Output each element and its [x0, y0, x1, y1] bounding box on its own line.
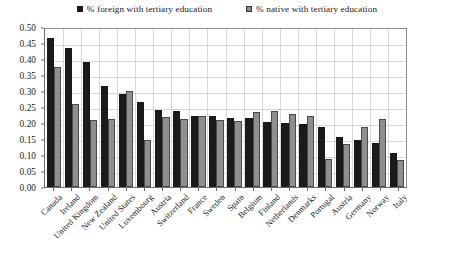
bar-group	[45, 29, 63, 187]
bar-native	[271, 111, 278, 187]
legend-entry-native: % native with tertiary education	[246, 4, 377, 14]
y-axis-tick-label: 0.40	[20, 55, 36, 65]
bar-native	[72, 104, 79, 187]
y-axis-tick-label: 0.50	[20, 23, 36, 33]
legend-swatch-native-icon	[246, 6, 252, 12]
bar-foreign	[47, 38, 54, 187]
legend-label-foreign: % foreign with tertiary education	[87, 4, 212, 14]
bar-foreign	[263, 122, 270, 187]
bar-group	[99, 29, 117, 187]
y-axis-tick-label: 0.00	[20, 183, 36, 193]
bar-group	[171, 29, 189, 187]
chart-legend: % foreign with tertiary education % nati…	[0, 4, 454, 14]
bar-foreign	[299, 124, 306, 187]
bar-native	[234, 121, 241, 187]
bar-native	[198, 116, 205, 187]
bar-native	[307, 116, 314, 187]
y-axis-tick-label: 0.45	[20, 39, 36, 49]
y-axis-tick-label: 0.15	[20, 135, 36, 145]
bar-foreign	[119, 94, 126, 187]
bar-native	[216, 120, 223, 187]
bar-foreign	[390, 153, 397, 187]
legend-swatch-foreign-icon	[77, 6, 83, 12]
bar-native	[325, 159, 332, 187]
bar-native	[361, 127, 368, 187]
bar-group	[117, 29, 135, 187]
y-axis-tick-label: 0.20	[20, 119, 36, 129]
bar-foreign	[354, 140, 361, 187]
bar-group	[81, 29, 99, 187]
bar-native	[90, 120, 97, 187]
x-axis-labels: CanadaIrelandUnited KingdomNew ZealandUn…	[44, 192, 407, 267]
bar-foreign	[318, 127, 325, 187]
bar-foreign	[83, 62, 90, 187]
bar-native	[343, 144, 350, 187]
bar-foreign	[227, 118, 234, 187]
legend-label-native: % native with tertiary education	[256, 4, 377, 14]
bar-group	[262, 29, 280, 187]
y-axis: 0.000.050.100.150.200.250.300.350.400.45…	[0, 28, 41, 188]
bar-group	[207, 29, 225, 187]
y-axis-tick-label: 0.25	[20, 103, 36, 113]
bar-group	[352, 29, 370, 187]
bar-foreign	[372, 143, 379, 187]
chart-container: % foreign with tertiary education % nati…	[0, 0, 454, 267]
bar-group	[280, 29, 298, 187]
bar-native	[253, 112, 260, 187]
bar-group	[244, 29, 262, 187]
bar-foreign	[191, 116, 198, 187]
bar-group	[153, 29, 171, 187]
bar-group	[225, 29, 243, 187]
y-axis-tick-label: 0.30	[20, 87, 36, 97]
bar-native	[397, 160, 404, 187]
bar-foreign	[336, 137, 343, 187]
x-axis-tick-label: Italy	[391, 192, 409, 210]
bar-groups	[45, 29, 406, 187]
bar-foreign	[155, 110, 162, 187]
bar-group	[63, 29, 81, 187]
bar-native	[379, 119, 386, 187]
bar-foreign	[245, 118, 252, 187]
bar-group	[135, 29, 153, 187]
y-axis-tick-label: 0.05	[20, 167, 36, 177]
bar-group	[298, 29, 316, 187]
bar-group	[370, 29, 388, 187]
legend-entry-foreign: % foreign with tertiary education	[77, 4, 212, 14]
bar-native	[108, 119, 115, 187]
bar-foreign	[173, 111, 180, 187]
plot-area	[44, 28, 407, 188]
bar-foreign	[281, 123, 288, 187]
y-axis-tick-label: 0.35	[20, 71, 36, 81]
y-axis-tick-label: 0.10	[20, 151, 36, 161]
bar-foreign	[137, 102, 144, 187]
bar-native	[144, 140, 151, 187]
bar-native	[54, 67, 61, 187]
bar-group	[189, 29, 207, 187]
bar-native	[180, 119, 187, 187]
bar-group	[316, 29, 334, 187]
bar-foreign	[209, 116, 216, 187]
bar-native	[162, 117, 169, 187]
bar-foreign	[101, 86, 108, 187]
bar-group	[388, 29, 406, 187]
bar-native	[126, 91, 133, 187]
bar-group	[334, 29, 352, 187]
bar-native	[289, 114, 296, 187]
bar-foreign	[65, 48, 72, 187]
